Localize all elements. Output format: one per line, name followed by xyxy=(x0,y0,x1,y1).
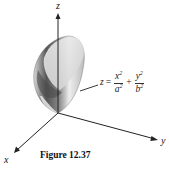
paraboloid-surface xyxy=(34,36,85,113)
z-axis-label: z xyxy=(56,1,60,11)
equation-lhs: z xyxy=(100,78,104,88)
exp: 2 xyxy=(119,70,122,76)
figure-caption: Figure 12.37 xyxy=(40,150,91,160)
y-axis-label: y xyxy=(161,136,165,146)
z-arrowhead-icon xyxy=(56,13,61,19)
y-axis xyxy=(58,113,155,139)
x-axis-label: x xyxy=(4,155,8,165)
fraction-x-over-a: x2 a2 xyxy=(114,72,123,94)
x-axis xyxy=(17,113,58,150)
plus-sign: + xyxy=(126,78,131,88)
equals-sign: = xyxy=(106,78,111,88)
paraboloid-equation: z = x2 a2 + y2 b2 xyxy=(100,72,145,94)
equation-leader-line xyxy=(80,85,98,91)
exp: 2 xyxy=(120,82,123,88)
exp: 2 xyxy=(140,70,143,76)
y-arrowhead-icon xyxy=(150,136,158,141)
fraction-y-over-b: y2 b2 xyxy=(135,72,144,94)
exp: 2 xyxy=(140,82,143,88)
